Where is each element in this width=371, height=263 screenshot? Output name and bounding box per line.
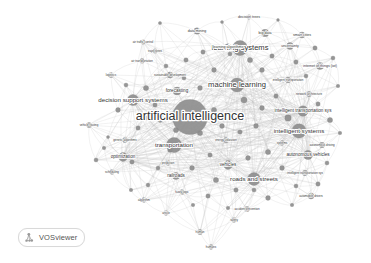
node-label: uncertainty — [281, 44, 299, 48]
network-graph-canvas[interactable]: artificial intelligencelearning systemsm… — [0, 0, 371, 263]
network-node[interactable] — [325, 161, 329, 165]
network-node[interactable] — [327, 117, 332, 122]
node-label: energy utilization — [215, 138, 237, 142]
vosviewer-visualization[interactable]: artificial intelligencelearning systemsm… — [0, 0, 371, 263]
network-node[interactable] — [156, 166, 160, 170]
network-node[interactable] — [221, 21, 224, 24]
network-node[interactable] — [280, 166, 285, 171]
network-node[interactable] — [228, 52, 232, 56]
network-node[interactable] — [254, 124, 259, 129]
network-node[interactable] — [184, 58, 188, 62]
network-node[interactable] — [208, 153, 212, 157]
network-edge — [166, 60, 186, 66]
node-label: algorithm — [138, 198, 150, 202]
network-node[interactable] — [158, 21, 161, 24]
network-edge — [104, 148, 112, 172]
node-label: railroads — [167, 173, 185, 178]
network-node[interactable] — [274, 94, 278, 98]
node-label: accident prevention — [234, 207, 259, 211]
network-node[interactable] — [277, 19, 280, 22]
node-label: automobile drivers — [299, 194, 323, 198]
node-label: forecasting — [166, 88, 189, 93]
network-node[interactable] — [294, 184, 298, 188]
network-node[interactable] — [206, 194, 210, 198]
network-node[interactable] — [136, 126, 140, 130]
network-node[interactable] — [226, 206, 230, 210]
network-node[interactable] — [338, 131, 342, 135]
network-node[interactable] — [266, 196, 271, 201]
network-edge — [211, 208, 228, 247]
node-label: sustainable development — [154, 73, 186, 77]
node-label: air transportation — [131, 59, 153, 63]
node-label: decision trees — [238, 15, 260, 19]
node-label: intelligent transportation sys — [275, 108, 333, 113]
node-label: human — [196, 230, 205, 234]
network-node[interactable] — [143, 85, 148, 90]
network-node[interactable] — [265, 149, 270, 154]
network-edge — [211, 220, 234, 247]
network-node[interactable] — [336, 84, 340, 88]
network-node[interactable] — [94, 158, 98, 162]
network-node[interactable] — [260, 68, 265, 73]
network-node[interactable] — [316, 102, 320, 106]
network-edge — [296, 48, 315, 62]
network-node[interactable] — [191, 203, 195, 207]
network-node[interactable] — [116, 108, 121, 113]
network-edge — [89, 125, 108, 137]
network-node[interactable] — [238, 130, 242, 134]
node-label: scheduling — [105, 170, 119, 174]
node-label: vehicles — [220, 162, 237, 167]
node-label: intelligent transportation — [273, 78, 304, 82]
node-label: logistics — [106, 73, 117, 77]
network-node[interactable] — [153, 103, 157, 107]
node-label: article — [162, 211, 170, 215]
network-node[interactable] — [146, 183, 150, 187]
network-node[interactable] — [304, 74, 308, 78]
network-edge — [129, 100, 133, 190]
vosviewer-badge[interactable]: VOSviewer — [18, 228, 85, 247]
network-node[interactable] — [130, 160, 134, 164]
network-node[interactable] — [102, 146, 106, 150]
network-node[interactable] — [212, 68, 217, 73]
network-node[interactable] — [247, 57, 252, 62]
network-node[interactable] — [220, 124, 225, 129]
network-node[interactable] — [294, 60, 298, 64]
network-edge — [268, 186, 296, 198]
network-edge — [290, 46, 308, 155]
network-node[interactable] — [124, 83, 128, 87]
network-node[interactable] — [260, 106, 265, 111]
network-edge — [327, 133, 340, 163]
node-label: intelligent systems — [274, 127, 325, 134]
network-node[interactable] — [313, 46, 317, 50]
vosviewer-badge-label: VOSviewer — [39, 233, 77, 242]
network-node[interactable] — [316, 182, 320, 186]
network-edge — [268, 198, 292, 205]
network-node[interactable] — [198, 86, 203, 91]
node-label: vehicle routing — [80, 123, 99, 127]
node-label: data mining — [188, 29, 207, 33]
term-labels-layer: artificial intelligencelearning systemsm… — [80, 15, 337, 249]
network-node[interactable] — [285, 115, 291, 121]
network-node[interactable] — [164, 64, 168, 68]
network-node[interactable] — [201, 50, 205, 54]
node-label: network architecture — [296, 92, 322, 96]
network-node[interactable] — [107, 136, 110, 139]
node-label: internet of things (iot) — [303, 64, 337, 68]
network-node[interactable] — [241, 97, 247, 103]
network-node[interactable] — [290, 203, 294, 207]
node-label: fuzzy logic — [175, 190, 189, 194]
network-edge — [208, 196, 228, 208]
node-label: systems — [277, 141, 288, 145]
network-node[interactable] — [331, 56, 335, 60]
network-node[interactable] — [129, 188, 133, 192]
network-node[interactable] — [270, 54, 274, 58]
network-edge — [228, 190, 236, 208]
network-node[interactable] — [190, 166, 195, 171]
network-edge — [123, 157, 311, 196]
network-node[interactable] — [213, 177, 218, 182]
network-node[interactable] — [234, 188, 238, 192]
network-edge — [155, 23, 160, 51]
network-node[interactable] — [252, 188, 256, 192]
network-node[interactable] — [246, 156, 251, 161]
network-edge — [315, 48, 333, 58]
